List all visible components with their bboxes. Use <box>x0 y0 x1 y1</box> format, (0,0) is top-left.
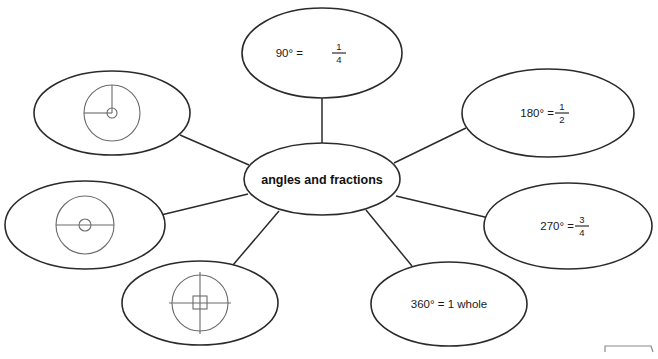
node-90-degrees[interactable]: 90° = 1 4 <box>242 8 402 98</box>
node-90-denominator: 4 <box>336 54 341 65</box>
center-node[interactable]: angles and fractions <box>244 143 400 215</box>
connector-center-to-180 <box>394 128 466 163</box>
node-180-numerator: 1 <box>559 101 564 112</box>
center-node-label: angles and fractions <box>261 173 383 187</box>
node-270-denominator: 4 <box>579 227 584 238</box>
node-icon-quarter-turn[interactable] <box>34 71 190 155</box>
node-270-numerator: 3 <box>579 214 584 225</box>
node-360-label: 360° = 1 whole <box>411 298 488 310</box>
node-270-label: 270° = <box>540 220 574 232</box>
node-180-label: 180° = <box>520 107 554 119</box>
node-360-degrees[interactable]: 360° = 1 whole <box>371 262 527 346</box>
connector-center-to-icon-quarter <box>180 135 249 165</box>
node-icon-half-turn[interactable] <box>5 181 165 269</box>
node-90-outline <box>242 8 402 98</box>
corner-fragment <box>605 346 653 352</box>
connector-center-to-270 <box>396 196 489 218</box>
node-270-degrees[interactable]: 270° = 3 4 <box>484 183 652 269</box>
connector-center-to-icon-whole <box>233 211 279 265</box>
node-180-degrees[interactable]: 180° = 1 2 <box>462 69 634 157</box>
connector-center-to-360 <box>366 210 412 266</box>
diagram-canvas: 90° = 1 4 180° = 1 2 270° = 3 4 360° = 1… <box>0 0 658 359</box>
connector-center-to-icon-half <box>161 194 248 215</box>
node-180-denominator: 2 <box>559 114 564 125</box>
concept-map-diagram: 90° = 1 4 180° = 1 2 270° = 3 4 360° = 1… <box>0 0 658 359</box>
node-90-label: 90° = <box>276 47 304 59</box>
node-icon-full-turn[interactable] <box>122 261 278 345</box>
node-90-numerator: 1 <box>336 41 341 52</box>
